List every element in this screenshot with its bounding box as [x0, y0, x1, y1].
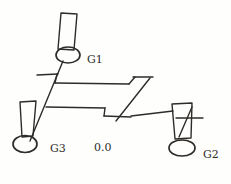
diagram-canvas: G1 G3 0.0 G2 [0, 0, 231, 184]
sketch-figure: G1 G3 0.0 G2 [0, 0, 231, 184]
platform-top-rail [55, 83, 129, 84]
paper-background [0, 0, 231, 184]
g3-label: G3 [50, 142, 66, 155]
platform-bottom-rail-upper [46, 107, 105, 108]
g1-label: G1 [87, 53, 103, 66]
platform-bottom-rail-mid [104, 116, 131, 117]
platform-top-left-tick [37, 74, 58, 75]
g2-label: G2 [203, 148, 219, 161]
platform-bottom-step-joint [104, 108, 105, 116]
reading-label: 0.0 [94, 141, 112, 154]
